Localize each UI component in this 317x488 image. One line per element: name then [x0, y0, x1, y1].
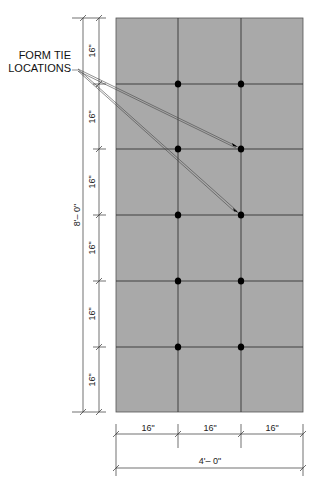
hdim-3: 16" [265, 423, 278, 433]
callout-line1: FORM TIE [19, 49, 71, 61]
hdim-total: 4'– 0" [199, 456, 221, 466]
vdim-1: 16" [87, 44, 97, 57]
hdim-2: 16" [203, 423, 216, 433]
vdim-3: 16" [87, 175, 97, 188]
callout-line2: LOCATIONS [8, 62, 71, 74]
hdim-1: 16" [141, 423, 154, 433]
vdim-4: 16" [87, 241, 97, 254]
vdim-6: 16" [87, 373, 97, 386]
vdim-5: 16" [87, 307, 97, 320]
form-tie-diagram: FORM TIE LOCATIONS 16" 16" 16" 16" 16" 1… [0, 0, 317, 488]
vdim-2: 16" [87, 110, 97, 123]
vdim-total: 8'– 0" [72, 204, 82, 226]
